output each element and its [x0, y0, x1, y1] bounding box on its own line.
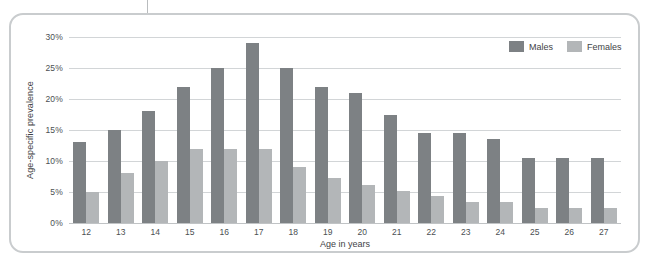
- legend-item-females: Females: [567, 41, 622, 52]
- x-tick-label-24: 24: [483, 227, 518, 237]
- bar-males-14[interactable]: [142, 111, 155, 223]
- x-tick-label-12: 12: [69, 227, 104, 237]
- x-tick-label-16: 16: [207, 227, 242, 237]
- bar-females-22[interactable]: [431, 196, 444, 223]
- bar-females-25[interactable]: [535, 208, 548, 223]
- y-tick-label: 20%: [45, 94, 63, 104]
- legend-label-males: Males: [529, 42, 553, 52]
- x-tick-label-21: 21: [380, 227, 415, 237]
- gridline-0%: 0%: [69, 223, 621, 224]
- bar-males-25[interactable]: [522, 158, 535, 223]
- male-swatch-icon: [509, 41, 524, 52]
- age-group-18[interactable]: 18: [276, 37, 311, 223]
- age-group-26[interactable]: 26: [552, 37, 587, 223]
- bar-males-17[interactable]: [246, 43, 259, 223]
- y-tick-label: 25%: [45, 63, 63, 73]
- age-group-12[interactable]: 12: [69, 37, 104, 223]
- x-tick-label-23: 23: [449, 227, 484, 237]
- x-tick-label-13: 13: [104, 227, 139, 237]
- y-tick-label: 0%: [50, 218, 63, 228]
- x-tick-label-14: 14: [138, 227, 173, 237]
- bar-females-23[interactable]: [466, 202, 479, 223]
- bar-males-18[interactable]: [280, 68, 293, 223]
- bar-females-17[interactable]: [259, 149, 272, 223]
- bar-males-21[interactable]: [384, 115, 397, 224]
- bar-males-12[interactable]: [73, 142, 86, 223]
- x-tick-label-18: 18: [276, 227, 311, 237]
- age-group-16[interactable]: 16: [207, 37, 242, 223]
- age-group-20[interactable]: 20: [345, 37, 380, 223]
- bar-females-27[interactable]: [604, 208, 617, 224]
- age-group-27[interactable]: 27: [587, 37, 622, 223]
- x-tick-label-20: 20: [345, 227, 380, 237]
- bar-females-13[interactable]: [121, 173, 134, 223]
- y-tick-label: 15%: [45, 125, 63, 135]
- chart-legend: Males Females: [509, 41, 622, 52]
- bar-males-13[interactable]: [108, 130, 121, 223]
- legend-item-males: Males: [509, 41, 553, 52]
- bar-females-14[interactable]: [155, 161, 168, 223]
- bar-males-22[interactable]: [418, 133, 431, 223]
- x-tick-label-25: 25: [518, 227, 553, 237]
- bar-males-26[interactable]: [556, 158, 569, 223]
- bar-males-23[interactable]: [453, 133, 466, 223]
- bar-males-15[interactable]: [177, 87, 190, 223]
- bar-females-26[interactable]: [569, 208, 582, 223]
- female-swatch-icon: [567, 41, 582, 52]
- bar-females-18[interactable]: [293, 167, 306, 223]
- bar-females-16[interactable]: [224, 149, 237, 223]
- x-tick-label-26: 26: [552, 227, 587, 237]
- bar-males-27[interactable]: [591, 158, 604, 223]
- age-group-15[interactable]: 15: [173, 37, 208, 223]
- age-group-24[interactable]: 24: [483, 37, 518, 223]
- x-tick-label-27: 27: [587, 227, 622, 237]
- y-tick-label: 10%: [45, 156, 63, 166]
- leader-line: [147, 0, 148, 14]
- bar-females-21[interactable]: [397, 191, 410, 223]
- age-group-13[interactable]: 13: [104, 37, 139, 223]
- age-group-25[interactable]: 25: [518, 37, 553, 223]
- bar-females-24[interactable]: [500, 202, 513, 223]
- bar-males-19[interactable]: [315, 87, 328, 223]
- y-axis-title-label: Age-specific prevalence: [25, 81, 35, 179]
- y-axis-title: Age-specific prevalence: [23, 37, 37, 223]
- x-tick-label-22: 22: [414, 227, 449, 237]
- y-tick-label: 30%: [45, 32, 63, 42]
- age-group-17[interactable]: 17: [242, 37, 277, 223]
- x-axis-title: Age in years: [69, 239, 621, 249]
- age-group-23[interactable]: 23: [449, 37, 484, 223]
- bar-males-24[interactable]: [487, 139, 500, 223]
- bar-females-15[interactable]: [190, 149, 203, 223]
- x-tick-label-17: 17: [242, 227, 277, 237]
- plot-area: 0%5%10%15%20%25%30% 12131415161718192021…: [69, 37, 621, 223]
- bar-females-19[interactable]: [328, 178, 341, 223]
- y-tick-label: 5%: [50, 187, 63, 197]
- bars-layer: 12131415161718192021222324252627: [69, 37, 621, 223]
- x-tick-label-19: 19: [311, 227, 346, 237]
- bar-females-12[interactable]: [86, 192, 99, 223]
- age-group-19[interactable]: 19: [311, 37, 346, 223]
- age-group-21[interactable]: 21: [380, 37, 415, 223]
- legend-label-females: Females: [587, 42, 622, 52]
- x-tick-label-15: 15: [173, 227, 208, 237]
- age-group-22[interactable]: 22: [414, 37, 449, 223]
- age-group-14[interactable]: 14: [138, 37, 173, 223]
- bar-males-20[interactable]: [349, 93, 362, 223]
- bar-females-20[interactable]: [362, 185, 375, 223]
- chart-card: Age-specific prevalence 0%5%10%15%20%25%…: [9, 13, 640, 253]
- bar-males-16[interactable]: [211, 68, 224, 223]
